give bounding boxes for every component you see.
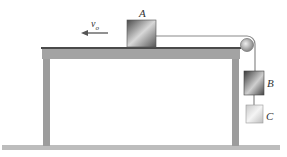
cord: [156, 36, 255, 105]
label-b: B: [267, 78, 274, 89]
block-b: [244, 71, 264, 95]
physics-diagram: [0, 0, 287, 157]
block-a: [127, 20, 156, 47]
table-top: [42, 48, 240, 59]
label-velocity-sub: o: [95, 24, 99, 32]
block-c: [246, 105, 263, 123]
table-leg-right: [232, 59, 239, 146]
table-leg-left: [43, 59, 50, 146]
label-velocity: vo: [91, 19, 99, 32]
pulley: [241, 39, 254, 52]
table: [41, 47, 241, 146]
label-c: C: [266, 111, 273, 122]
label-a: A: [139, 8, 146, 19]
